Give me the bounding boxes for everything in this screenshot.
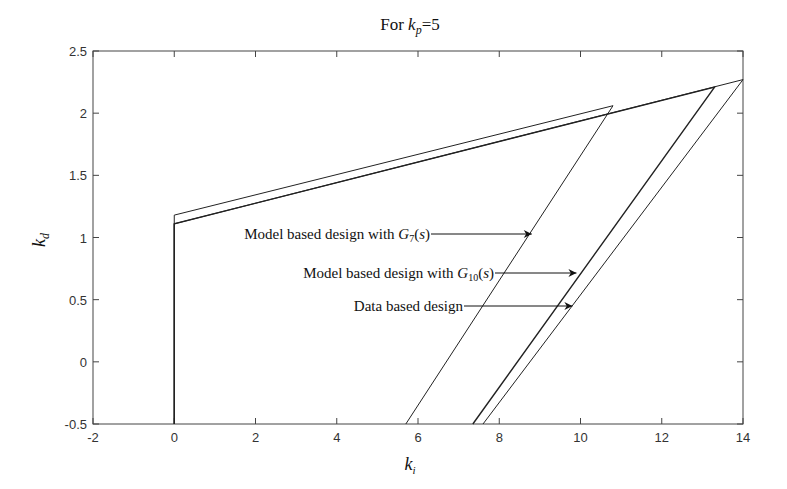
x-tick-label: 12 — [655, 430, 669, 445]
chart-title: For kp=5 — [380, 15, 440, 37]
x-tick-label: 0 — [171, 430, 178, 445]
x-tick-label: 10 — [573, 430, 587, 445]
y-tick-label: 0 — [80, 355, 87, 370]
chart: -202468101214-0.500.511.522.5 Model base… — [0, 0, 787, 489]
series-lines — [174, 80, 743, 424]
y-tick-label: 0.5 — [69, 293, 87, 308]
y-axis-label: kd — [29, 232, 52, 247]
annotation-label: Data based design — [354, 298, 464, 314]
x-tick-label: 8 — [496, 430, 503, 445]
annotation-label: Model based design with G7(s) — [244, 226, 430, 244]
x-tick-label: 14 — [736, 430, 750, 445]
annotation-label: Model based design with G10(s) — [303, 265, 494, 283]
y-tick-label: 1.5 — [69, 168, 87, 183]
y-tick-label: 1 — [80, 231, 87, 246]
y-tick-label: 2 — [80, 106, 87, 121]
series-3-boundary — [174, 80, 743, 424]
x-tick-label: 6 — [414, 430, 421, 445]
x-tick-label: 4 — [333, 430, 340, 445]
y-tick-label: -0.5 — [65, 417, 87, 432]
x-tick-label: -2 — [87, 430, 99, 445]
x-tick-label: 2 — [252, 430, 259, 445]
y-tick-label: 2.5 — [69, 44, 87, 59]
x-axis-label: ki — [404, 454, 415, 476]
series-2-boundary — [174, 87, 714, 424]
